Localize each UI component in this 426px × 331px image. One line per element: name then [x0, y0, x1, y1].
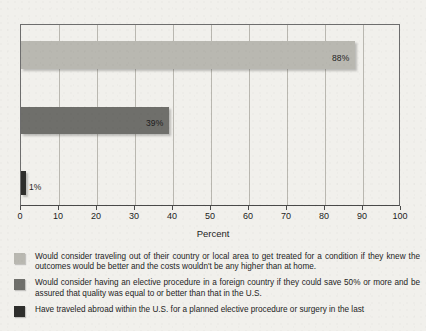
bar-chart-figure: 88% 39% 1% 0 10 20 30 40 50 60 70 80 90 … — [0, 0, 426, 331]
legend-label-1: Would consider traveling out of their co… — [35, 252, 420, 272]
tick-label-100: 100 — [385, 211, 415, 221]
tick-60 — [248, 206, 249, 210]
tick-label-60: 60 — [233, 211, 263, 221]
tick-label-0: 0 — [5, 211, 35, 221]
legend-swatch-icon-1 — [14, 253, 25, 264]
legend: Would consider traveling out of their co… — [14, 252, 420, 323]
tick-0 — [20, 206, 21, 210]
tick-70 — [286, 206, 287, 210]
tick-label-90: 90 — [347, 211, 377, 221]
tick-label-10: 10 — [43, 211, 73, 221]
x-axis-title: Percent — [0, 228, 426, 239]
tick-40 — [172, 206, 173, 210]
tick-10 — [58, 206, 59, 210]
tick-100 — [400, 206, 401, 210]
bar-label-series-2: 39% — [146, 118, 163, 128]
tick-label-50: 50 — [195, 211, 225, 221]
legend-swatch-icon-3 — [14, 306, 25, 317]
plot-area — [20, 24, 400, 206]
tick-50 — [210, 206, 211, 210]
tick-30 — [134, 206, 135, 210]
gridline-90 — [363, 25, 364, 205]
tick-label-80: 80 — [309, 211, 339, 221]
tick-label-70: 70 — [271, 211, 301, 221]
legend-item-2: Would consider having an elective proced… — [14, 278, 420, 298]
tick-90 — [362, 206, 363, 210]
bar-series-3 — [21, 171, 26, 195]
tick-label-40: 40 — [157, 211, 187, 221]
legend-item-3: Have traveled abroad within the U.S. for… — [14, 305, 420, 317]
tick-label-20: 20 — [81, 211, 111, 221]
legend-label-2: Would consider having an elective proced… — [35, 278, 420, 298]
tick-label-30: 30 — [119, 211, 149, 221]
legend-swatch-icon-2 — [14, 279, 25, 290]
bar-label-series-1: 88% — [332, 53, 349, 63]
bar-label-series-3: 1% — [29, 182, 42, 192]
legend-label-3: Have traveled abroad within the U.S. for… — [35, 305, 420, 315]
bar-series-1 — [21, 41, 355, 69]
legend-item-1: Would consider traveling out of their co… — [14, 252, 420, 272]
tick-80 — [324, 206, 325, 210]
tick-20 — [96, 206, 97, 210]
